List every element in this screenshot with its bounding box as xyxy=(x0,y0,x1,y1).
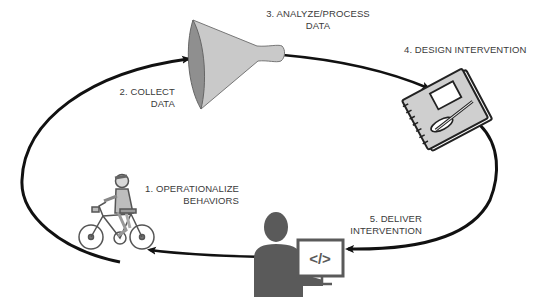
behavior-intervention-cycle-diagram: </> 2. COLLECT DATA 3. ANALYZE/PROCESS D… xyxy=(0,0,546,297)
step-5-line2: INTERVENTION xyxy=(340,225,422,237)
step-1-line2: BEHAVIORS xyxy=(140,195,239,207)
step-2-line1: 2. COLLECT xyxy=(110,86,175,98)
funnel-icon xyxy=(188,20,284,109)
step-5-line1: 5. DELIVER xyxy=(340,213,422,225)
step-4-line1: 4. DESIGN INTERVENTION xyxy=(404,44,526,56)
arrow-analyze xyxy=(283,55,428,88)
notebook-sketch-icon xyxy=(400,67,492,153)
step-3-line1: 3. ANALYZE/PROCESS xyxy=(258,8,378,20)
step-5-label: 5. DELIVER INTERVENTION xyxy=(340,213,422,237)
step-3-line2: DATA xyxy=(258,20,378,32)
step-1-label: 1. OPERATIONALIZE BEHAVIORS xyxy=(140,183,239,207)
step-2-label: 2. COLLECT DATA xyxy=(110,86,175,110)
arrow-operationalize xyxy=(150,250,262,257)
person-at-computer-code-icon: </> xyxy=(254,212,343,297)
step-4-label: 4. DESIGN INTERVENTION xyxy=(404,44,526,56)
step-1-line1: 1. OPERATIONALIZE xyxy=(140,183,239,195)
code-glyph-icon: </> xyxy=(309,250,331,267)
step-2-line2: DATA xyxy=(110,98,175,110)
step-3-label: 3. ANALYZE/PROCESS DATA xyxy=(258,8,378,32)
